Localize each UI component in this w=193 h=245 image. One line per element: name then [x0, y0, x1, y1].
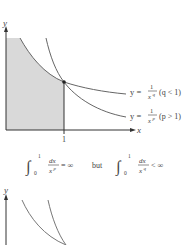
svg-text:1: 1: [150, 107, 153, 114]
svg-text:1: 1: [128, 153, 131, 159]
svg-text:∫: ∫: [115, 158, 122, 177]
but-connector: but: [92, 161, 103, 170]
svg-text:(q < 1): (q < 1): [159, 88, 181, 97]
shaded-area: [6, 38, 64, 130]
intersection-point: [62, 80, 66, 84]
svg-text:y =: y =: [130, 87, 141, 97]
svg-text:1: 1: [38, 153, 41, 159]
svg-text:x: x: [147, 93, 151, 100]
integral-left: ∫ 0 1 dx x p = ∞: [25, 153, 74, 177]
svg-text:y =: y =: [130, 111, 141, 121]
svg-text:1: 1: [150, 83, 153, 90]
svg-text:(p > 1): (p > 1): [159, 112, 181, 121]
x-axis-arrow-icon: [130, 128, 136, 132]
integral-right: ∫ 0 1 dx x q < ∞: [115, 153, 164, 177]
svg-text:p: p: [152, 116, 156, 121]
y-axis-label: y: [2, 18, 7, 28]
svg-text:∫: ∫: [25, 158, 32, 177]
svg-text:dx: dx: [49, 157, 57, 165]
curve-bottom-2: [48, 200, 66, 245]
curve-bottom-1: [22, 200, 66, 245]
x-axis-label: x: [136, 125, 141, 135]
tick-label-one: 1: [62, 135, 66, 144]
svg-text:x: x: [48, 167, 53, 175]
svg-text:< ∞: < ∞: [151, 161, 164, 170]
svg-text:dx: dx: [139, 157, 147, 165]
svg-text:p: p: [53, 166, 57, 171]
top-graph: y x 1 y = 1 x q (q < 1) y = 1 x p (p: [2, 18, 181, 144]
label-q-curve: y = 1 x q (q < 1): [130, 83, 181, 100]
bottom-graph: y: [3, 185, 66, 245]
svg-text:q: q: [153, 92, 156, 97]
svg-text:0: 0: [34, 170, 37, 176]
svg-text:q: q: [144, 166, 147, 171]
integral-equation: ∫ 0 1 dx x p = ∞ but ∫ 0 1 dx x q < ∞: [25, 153, 164, 177]
svg-text:x: x: [138, 167, 143, 175]
figure-canvas: y x 1 y = 1 x q (q < 1) y = 1 x p (p: [0, 0, 193, 245]
label-p-curve: y = 1 x p (p > 1): [130, 107, 181, 124]
svg-text:= ∞: = ∞: [61, 161, 74, 170]
y-axis-bottom-label: y: [3, 185, 8, 195]
svg-text:x: x: [147, 117, 151, 124]
svg-text:0: 0: [124, 170, 127, 176]
